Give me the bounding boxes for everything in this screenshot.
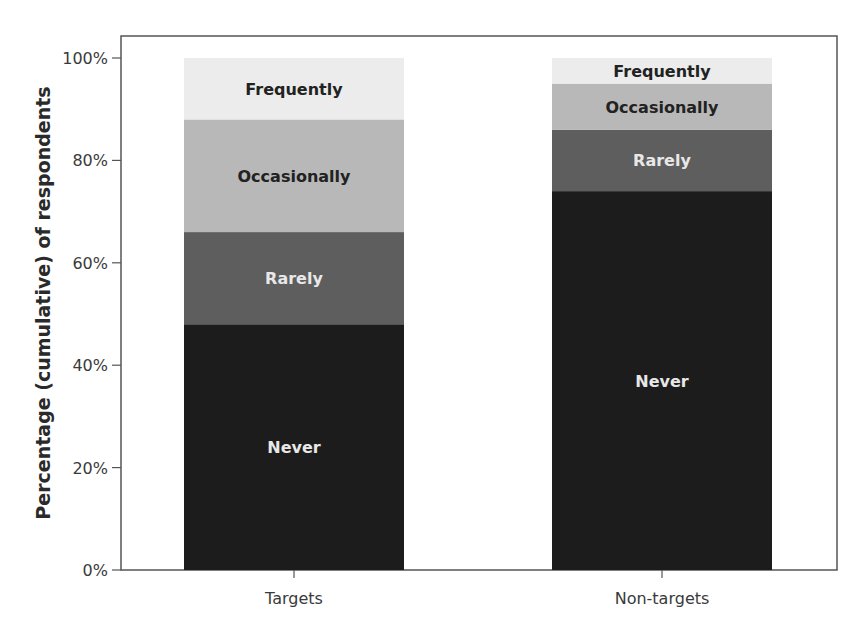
- bars: NeverRarelyOccasionallyFrequentlyNeverRa…: [184, 58, 772, 570]
- y-tick-label: 100%: [62, 49, 108, 68]
- segment-label: Frequently: [613, 62, 711, 81]
- segment-label: Frequently: [245, 80, 343, 99]
- y-tick-label: 60%: [72, 254, 108, 273]
- segment-label: Occasionally: [606, 98, 720, 117]
- segment-label: Rarely: [265, 269, 323, 288]
- segment-label: Rarely: [633, 151, 691, 170]
- bar-targets: NeverRarelyOccasionallyFrequently: [184, 58, 404, 570]
- x-tick-label: Targets: [264, 589, 323, 608]
- segment-label: Never: [635, 372, 689, 391]
- segment-label: Occasionally: [238, 167, 352, 186]
- stacked-bar-chart: Percentage (cumulative) of respondents 0…: [0, 0, 866, 637]
- y-tick-label: 0%: [83, 561, 108, 580]
- bar-non-targets: NeverRarelyOccasionallyFrequently: [552, 58, 772, 570]
- x-tick-label: Non-targets: [615, 589, 710, 608]
- y-tick-label: 20%: [72, 459, 108, 478]
- y-tick-label: 80%: [72, 151, 108, 170]
- y-axis-label: Percentage (cumulative) of respondents: [32, 86, 54, 519]
- segment-label: Never: [267, 438, 321, 457]
- y-axis-ticks: 0%20%40%60%80%100%: [62, 49, 121, 580]
- y-tick-label: 40%: [72, 356, 108, 375]
- x-axis-ticks: TargetsNon-targets: [264, 570, 709, 608]
